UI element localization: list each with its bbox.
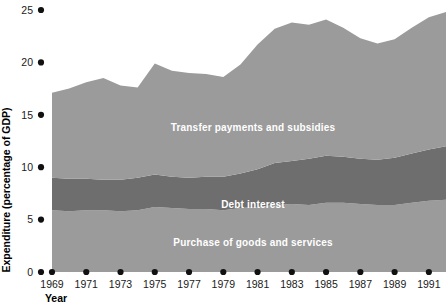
x-tick-dot xyxy=(49,269,55,275)
y-tick-dot xyxy=(38,59,44,65)
y-tick-dot xyxy=(38,7,44,13)
x-tick-dot xyxy=(152,269,158,275)
x-tick-label: 1971 xyxy=(75,278,99,290)
x-tick-dot xyxy=(392,269,398,275)
y-tick-label: 15 xyxy=(21,109,33,121)
x-tick-label: 1977 xyxy=(177,278,201,290)
x-tick-dot xyxy=(186,269,192,275)
y-tick-dot xyxy=(38,112,44,118)
x-tick-label: 1983 xyxy=(280,278,304,290)
y-tick-label: 5 xyxy=(27,213,33,225)
x-tick-label: 1979 xyxy=(212,278,236,290)
y-tick-dot xyxy=(38,217,44,223)
y-tick-dot xyxy=(38,269,44,275)
x-axis-title: Year xyxy=(45,292,67,304)
x-tick-label: 1991 xyxy=(417,278,441,290)
stacked-area-chart: 2520151050 19691971197319751977197919811… xyxy=(0,0,446,308)
x-tick-label: 1989 xyxy=(383,278,407,290)
y-tick-dot xyxy=(38,164,44,170)
series-label-transfer-payments: Transfer payments and subsidies xyxy=(171,122,336,133)
x-tick-dot xyxy=(289,269,295,275)
x-tick-label: 1969 xyxy=(40,278,64,290)
y-tick-label: 0 xyxy=(27,266,33,278)
x-tick-dot xyxy=(426,269,432,275)
x-tick-dot xyxy=(83,269,89,275)
x-tick-label: 1985 xyxy=(314,278,338,290)
x-tick-dot xyxy=(323,269,329,275)
y-tick-label: 10 xyxy=(21,161,33,173)
x-tick-dot xyxy=(220,269,226,275)
x-tick-label: 1987 xyxy=(349,278,373,290)
y-axis-title: Expenditure (percentage of GDP) xyxy=(0,107,12,272)
x-tick-label: 1975 xyxy=(143,278,167,290)
y-tick-label: 25 xyxy=(21,4,33,16)
x-tick-dot xyxy=(254,269,260,275)
x-tick-dot xyxy=(357,269,363,275)
series-label-debt-interest: Debt interest xyxy=(221,199,285,210)
chart-container: 2520151050 19691971197319751977197919811… xyxy=(0,0,446,308)
series-label-purchase-goods: Purchase of goods and services xyxy=(173,237,333,248)
x-tick-label: 1981 xyxy=(246,278,270,290)
x-tick-dot xyxy=(117,269,123,275)
y-tick-label: 20 xyxy=(21,56,33,68)
x-tick-label: 1973 xyxy=(109,278,133,290)
